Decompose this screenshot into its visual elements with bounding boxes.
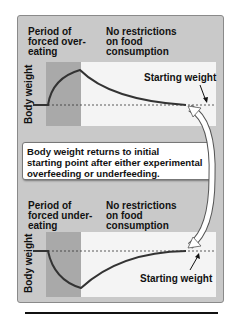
top-weight-curve	[33, 70, 186, 105]
curves-and-arrows	[0, 0, 235, 317]
bottom-weight-curve	[33, 251, 186, 288]
arrowhead-icon	[195, 253, 200, 259]
arrowhead-icon	[203, 97, 208, 103]
divider-rule	[25, 312, 218, 314]
bottom-pointer-arrow-icon	[190, 256, 198, 270]
